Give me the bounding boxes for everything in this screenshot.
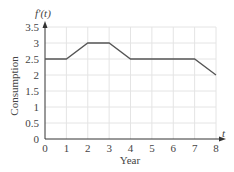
x-tick-label: 8	[213, 142, 219, 154]
x-tick-labels: 012345678	[42, 142, 219, 154]
y-tick-label: 1	[34, 101, 40, 113]
x-tick-label: 0	[42, 142, 48, 154]
y-tick-label: 0.5	[25, 117, 39, 129]
line-chart: 012345678 00.511.522.533.5 Consumption Y…	[0, 0, 234, 172]
y-axis-label: Consumption	[8, 56, 20, 116]
y-axis-symbol: f'(t)	[35, 7, 51, 20]
y-tick-label: 3	[34, 37, 40, 49]
x-tick-label: 5	[149, 142, 155, 154]
y-tick-label: 3.5	[25, 21, 39, 33]
x-axis-label: Year	[120, 154, 141, 166]
x-tick-label: 3	[106, 142, 112, 154]
y-tick-labels: 00.511.522.533.5	[25, 21, 39, 145]
x-tick-label: 6	[171, 142, 177, 154]
y-axis-arrow-icon	[43, 21, 48, 28]
x-tick-label: 1	[64, 142, 70, 154]
x-tick-label: 7	[192, 142, 198, 154]
y-tick-label: 2.5	[25, 53, 39, 65]
grid-lines	[45, 27, 216, 139]
x-axis-symbol: t	[222, 127, 226, 139]
x-tick-label: 4	[128, 142, 134, 154]
y-tick-label: 0	[34, 133, 40, 145]
y-tick-label: 2	[34, 69, 40, 81]
y-tick-label: 1.5	[25, 85, 39, 97]
x-tick-label: 2	[85, 142, 91, 154]
